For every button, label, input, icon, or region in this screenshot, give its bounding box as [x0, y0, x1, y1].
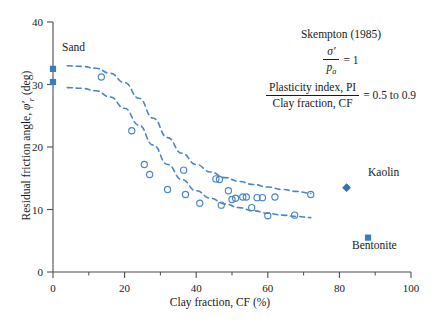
stress-ratio-denominator: pa [323, 60, 339, 78]
citation-text: Skempton (1985) [243, 28, 439, 41]
x-tick-label: 40 [191, 282, 203, 294]
data-point-open-circle [182, 191, 188, 197]
stress-ratio-fraction: σ′ pa [323, 44, 339, 77]
x-tick-label: 80 [334, 282, 346, 294]
data-point-open-circle [249, 205, 255, 211]
data-point-open-circle [308, 191, 314, 197]
stress-ratio-numerator: σ′ [323, 44, 339, 59]
data-point-open-circle [98, 74, 104, 80]
pi-cf-denominator: Clay fraction, CF [266, 96, 359, 110]
data-point-open-circle [272, 194, 278, 200]
y-tick-label: 40 [32, 16, 44, 28]
data-point-open-circle [181, 167, 187, 173]
data-point-open-circle [141, 161, 147, 167]
y-tick-label: 0 [38, 266, 44, 278]
chart-container: 020406080100010203040 Residual friction … [0, 0, 442, 322]
data-point-open-circle [225, 188, 231, 194]
data-point-open-circle [164, 186, 170, 192]
data-point-open-circle [232, 195, 238, 201]
data-point-open-circle [147, 171, 153, 177]
pi-cf-fraction: Plasticity index, PI Clay fraction, CF [266, 80, 359, 110]
data-point-open-circle [197, 200, 203, 206]
x-tick-label: 0 [50, 282, 56, 294]
bentonite-annotation: Bentonite [352, 239, 397, 251]
x-tick-label: 60 [262, 282, 274, 294]
pi-cf-value: = 0.5 to 0.9 [363, 89, 416, 102]
pi-cf-equation: Plasticity index, PI Clay fraction, CF =… [243, 80, 439, 110]
skempton-annotation-block: Skempton (1985) σ′ pa = 1 Plasticity ind… [243, 28, 439, 110]
y-axis-title: Residual friction angle, φ′r (deg) [20, 36, 35, 256]
x-tick-label: 20 [119, 282, 131, 294]
stress-ratio-value: = 1 [343, 54, 358, 67]
data-point-filled-diamond [342, 183, 351, 192]
data-point-open-circle [129, 128, 135, 134]
data-point-open-circle [292, 212, 298, 218]
data-point-filled-square [50, 79, 56, 85]
sand-annotation: Sand [62, 41, 85, 53]
kaolin-annotation: Kaolin [368, 166, 399, 178]
data-point-filled-square [50, 66, 56, 72]
x-tick-label: 100 [403, 282, 420, 294]
x-axis-title: Clay fraction, CF (%) [110, 296, 330, 308]
data-point-open-circle [229, 196, 235, 202]
pi-cf-numerator: Plasticity index, PI [266, 80, 359, 95]
stress-ratio-equation: σ′ pa = 1 [243, 44, 439, 77]
